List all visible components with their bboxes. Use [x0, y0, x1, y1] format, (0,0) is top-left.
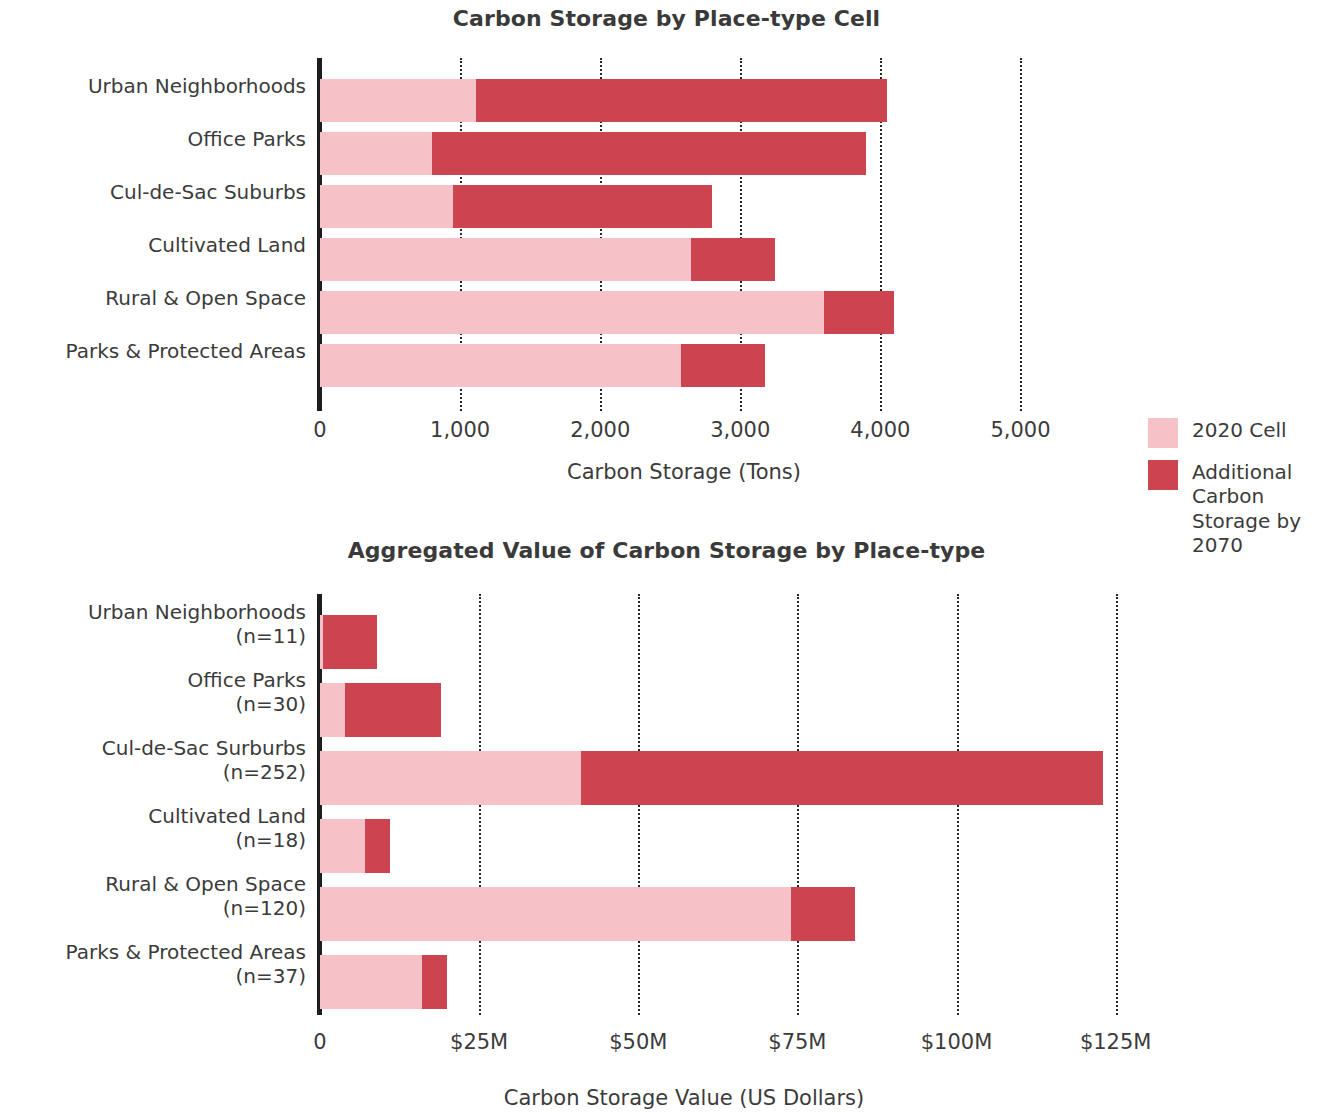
category-label-text: Parks & Protected Areas [66, 339, 306, 363]
x-tick-label: 2,000 [570, 418, 630, 442]
x-tick-label: $125M [1080, 1030, 1152, 1054]
bar-segment [320, 185, 453, 228]
bar-segment [581, 751, 1103, 805]
category-label-text: Cultivated Land [148, 233, 306, 257]
bar-segment [320, 955, 422, 1009]
x-tick-label: $100M [921, 1030, 993, 1054]
x-tick-label: 5,000 [990, 418, 1050, 442]
bar-segment [320, 79, 476, 122]
category-label-text: Rural & Open Space [105, 872, 306, 896]
category-label-text: Parks & Protected Areas [66, 940, 306, 964]
legend-label-2020-cell: 2020 Cell [1192, 418, 1287, 442]
bar-segment [453, 185, 712, 228]
legend-item-2020-cell: 2020 Cell [1148, 418, 1333, 448]
x-tick-label: 4,000 [850, 418, 910, 442]
bar-segment [320, 132, 432, 175]
chart1-title: Carbon Storage by Place-type Cell [0, 6, 1333, 31]
legend-swatch-2020-cell [1148, 418, 1178, 448]
category-label: Office Parks(n=30) [6, 669, 306, 716]
category-label-text: Office Parks [188, 668, 306, 692]
bar-segment [476, 79, 888, 122]
category-count-label: (n=18) [6, 829, 306, 853]
category-label-text: Cul-de-Sac Surburbs [102, 736, 306, 760]
category-label: Rural & Open Space(n=120) [6, 873, 306, 920]
category-label-text: Rural & Open Space [105, 286, 306, 310]
category-count-label: (n=11) [6, 625, 306, 649]
bar-segment [691, 238, 775, 281]
bar-segment [320, 819, 365, 873]
bar-segment [824, 291, 894, 334]
category-label: Cul-de-Sac Suburbs [6, 181, 306, 205]
bar-segment [791, 887, 855, 941]
gridline [1020, 58, 1022, 411]
category-label-text: Urban Neighborhoods [88, 600, 306, 624]
chart1-x-axis-title: Carbon Storage (Tons) [567, 460, 801, 484]
category-label-text: Urban Neighborhoods [88, 74, 306, 98]
gridline [1116, 594, 1118, 1015]
category-label: Cul-de-Sac Surburbs(n=252) [6, 737, 306, 784]
x-tick-label: 0 [313, 418, 326, 442]
bar-segment [320, 291, 824, 334]
x-tick-label: $25M [450, 1030, 508, 1054]
x-tick-label: 1,000 [430, 418, 490, 442]
chart2-x-axis-title: Carbon Storage Value (US Dollars) [504, 1086, 864, 1110]
bar-segment [320, 344, 681, 387]
category-count-label: (n=120) [6, 897, 306, 921]
x-tick-label: $50M [609, 1030, 667, 1054]
category-label: Urban Neighborhoods [6, 75, 306, 99]
bar-segment [320, 887, 791, 941]
bar-segment [323, 615, 377, 669]
category-label: Parks & Protected Areas [6, 340, 306, 364]
category-label: Cultivated Land(n=18) [6, 805, 306, 852]
category-count-label: (n=37) [6, 965, 306, 989]
legend-swatch-additional-storage [1148, 460, 1178, 490]
category-label: Office Parks [6, 128, 306, 152]
category-label: Cultivated Land [6, 234, 306, 258]
category-label: Urban Neighborhoods(n=11) [6, 601, 306, 648]
bar-segment [422, 955, 447, 1009]
category-label: Rural & Open Space [6, 287, 306, 311]
bar-segment [320, 683, 345, 737]
bar-segment [681, 344, 765, 387]
chart2-title: Aggregated Value of Carbon Storage by Pl… [0, 538, 1333, 563]
x-tick-label: 3,000 [710, 418, 770, 442]
category-label: Parks & Protected Areas(n=37) [6, 941, 306, 988]
x-tick-label: $75M [768, 1030, 826, 1054]
category-label-text: Cultivated Land [148, 804, 306, 828]
bar-segment [320, 751, 581, 805]
x-tick-label: 0 [313, 1030, 326, 1054]
bar-segment [345, 683, 440, 737]
category-count-label: (n=252) [6, 761, 306, 785]
bar-segment [320, 238, 691, 281]
bar-segment [432, 132, 866, 175]
bar-segment [365, 819, 390, 873]
category-label-text: Office Parks [188, 127, 306, 151]
category-label-text: Cul-de-Sac Suburbs [110, 180, 306, 204]
category-count-label: (n=30) [6, 693, 306, 717]
